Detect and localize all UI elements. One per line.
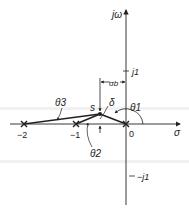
theta2-leader (87, 123, 92, 147)
tick-label-neg1: −1 (70, 130, 80, 140)
tick-label-neg-j1: −j1 (137, 172, 149, 182)
theta1-label: θ1 (130, 102, 141, 113)
theta2-label: θ2 (90, 148, 101, 159)
origin-label: 0 (129, 129, 134, 139)
theta3-label: θ3 (55, 97, 66, 108)
tick-label-neg2: −2 (17, 130, 27, 140)
sigma-b-label: σb (109, 79, 119, 88)
test-point-label: s (90, 102, 95, 113)
tick-label-j1: j1 (131, 67, 139, 77)
delta-label: δ (109, 97, 115, 108)
real-axis-label: σ (174, 127, 181, 138)
s-plane-diagram: jω σ 0 j1 −j1 −2 −1 s σb θ1 δ θ3 θ2 (0, 0, 189, 219)
theta3-leader (57, 108, 62, 120)
vector-from-origin (100, 114, 126, 124)
test-point-s (98, 112, 102, 116)
imag-axis-label: jω (110, 9, 122, 20)
